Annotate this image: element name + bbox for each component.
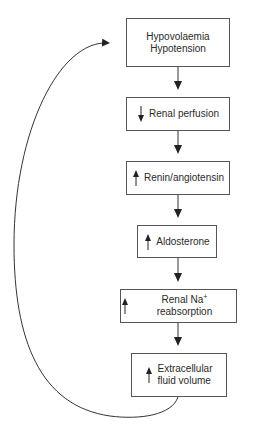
arrow-up-icon <box>132 170 140 186</box>
arrow-up-icon <box>121 298 129 314</box>
node-label: Renal perfusion <box>149 108 219 120</box>
node-label-line: fluid volume <box>157 375 212 387</box>
node-extracellular-fluid-volume: Extracellular fluid volume <box>131 353 227 397</box>
arrow-up-icon <box>144 234 152 250</box>
node-label: Renin/angiotensin <box>144 172 224 184</box>
node-label: Aldosterone <box>156 236 209 248</box>
flow-arrow-5 <box>174 323 182 346</box>
arrow-up-icon <box>145 367 153 383</box>
node-label: Renal Na+ reabsorption <box>133 294 236 318</box>
node-renal-perfusion: Renal perfusion <box>126 97 230 131</box>
node-hypovolaemia-hypotension: Hypovolaemia Hypotension <box>126 18 230 67</box>
node-renin-angiotensin: Renin/angiotensin <box>126 161 230 195</box>
node-label-line: Hypotension <box>146 43 209 55</box>
flow-arrow-3 <box>174 195 182 218</box>
flow-arrow-1 <box>174 67 182 90</box>
node-label-line: Extracellular <box>157 363 212 375</box>
node-label-text: Renal Na <box>162 294 204 305</box>
flow-arrow-2 <box>174 131 182 154</box>
arrow-down-icon <box>137 106 145 122</box>
node-renal-na-reabsorption: Renal Na+ reabsorption <box>120 289 237 323</box>
node-label-text: reabsorption <box>157 306 213 317</box>
node-label-line: Hypovolaemia <box>146 31 209 43</box>
node-aldosterone: Aldosterone <box>137 225 217 258</box>
flow-arrow-4 <box>174 258 182 282</box>
superscript-plus: + <box>203 293 207 300</box>
